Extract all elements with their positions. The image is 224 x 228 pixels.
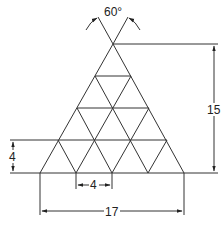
angle-label: 60°: [104, 5, 122, 19]
spacing-label: 4: [90, 178, 97, 192]
base-width-label: 17: [105, 205, 119, 219]
truss-diagram: 60° 15 4 4 17: [0, 0, 224, 228]
height-label: 15: [207, 103, 221, 117]
angle-indicator: [86, 17, 140, 44]
triangle-grid: [40, 44, 184, 173]
row-height-dimension: [10, 140, 58, 173]
row-height-label: 4: [9, 150, 16, 164]
